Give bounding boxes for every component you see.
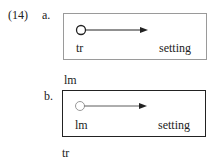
box-b-left-text: lm	[75, 118, 88, 132]
diagram-box-a: tr setting	[63, 13, 207, 60]
circle-icon	[77, 26, 86, 35]
diagram-box-b: lm setting	[62, 90, 206, 137]
arrowhead-icon	[140, 27, 148, 33]
circle-icon	[76, 102, 85, 111]
box-a-right-text: setting	[159, 41, 191, 55]
box-a-left-text: tr	[76, 41, 83, 55]
below-b-text: tr	[62, 146, 69, 160]
example-a-label: a.	[42, 8, 50, 22]
below-a-text: lm	[64, 73, 77, 87]
box-b-right-text: setting	[158, 118, 190, 132]
example-b-label: b.	[44, 89, 53, 103]
arrowhead-icon	[139, 103, 147, 109]
example-number: (14)	[8, 8, 28, 22]
